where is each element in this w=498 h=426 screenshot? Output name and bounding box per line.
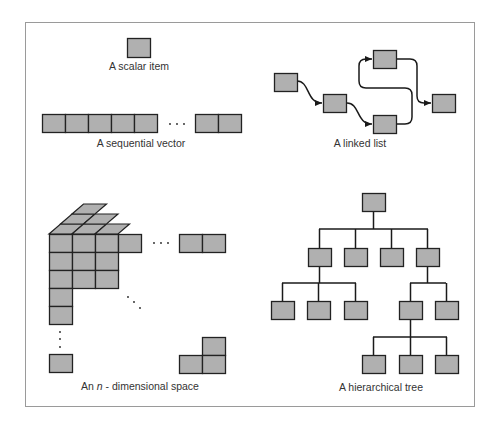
linked-list-node — [433, 95, 456, 113]
linked-list-node — [374, 116, 397, 134]
nspace-row-ellipsis-dot — [160, 242, 162, 244]
linked-list-label: A linked list — [334, 137, 387, 149]
nspace-cell — [50, 289, 73, 307]
linked-list-node — [275, 74, 298, 92]
scalar-cell — [128, 39, 151, 58]
nspace-cell — [96, 235, 119, 253]
tree-node — [381, 249, 404, 267]
tree-node — [345, 302, 368, 320]
nspace-cell — [73, 253, 96, 271]
link-arrow-2-3 — [347, 103, 372, 124]
nspace-cell — [50, 235, 73, 253]
vector-cell — [196, 115, 219, 133]
nspace-diagonal-ellipsis-dot — [127, 296, 129, 298]
nspace-cell — [203, 338, 226, 356]
nspace-diagonal-ellipsis-dot — [133, 301, 135, 303]
nspace-cell — [203, 356, 226, 374]
nspace-cell — [73, 271, 96, 289]
nspace-cell — [96, 253, 119, 271]
vector-cell — [89, 115, 112, 133]
nspace-row-ellipsis-dot — [167, 242, 169, 244]
link-arrow-4-5 — [397, 59, 431, 103]
linked-list-node — [374, 51, 397, 69]
vector-cell — [66, 115, 89, 133]
nspace-label-suffix: - dimensional space — [103, 380, 199, 392]
nspace-label-prefix: An — [81, 380, 97, 392]
vector-ellipsis-dot — [169, 123, 171, 125]
tree-label: A hierarchical tree — [339, 381, 423, 393]
tree-node — [272, 302, 295, 320]
link-arrow-1-2 — [297, 81, 322, 103]
nspace-cell — [50, 355, 73, 373]
nspace-cell — [180, 235, 203, 253]
nspace-cell — [119, 235, 142, 253]
tree-node — [436, 302, 459, 320]
nspace-column-ellipsis-dot — [59, 346, 61, 348]
tree-node — [417, 249, 440, 267]
vector-cell — [135, 115, 158, 133]
nspace-cell — [50, 307, 73, 325]
tree-node — [345, 249, 368, 267]
nspace-cell — [180, 356, 203, 374]
vector-cell — [112, 115, 135, 133]
tree-node — [400, 302, 423, 320]
linked-list-node — [324, 95, 347, 113]
nspace-column-ellipsis-dot — [59, 338, 61, 340]
nspace-top-face — [72, 204, 107, 214]
tree-leaf-node — [436, 356, 459, 374]
diagram-canvas — [0, 0, 498, 426]
nspace-cell — [96, 271, 119, 289]
nspace-column-ellipsis-dot — [59, 331, 61, 333]
tree-node — [308, 302, 331, 320]
nspace-cell — [73, 235, 96, 253]
tree-node — [309, 249, 332, 267]
vector-ellipsis-dot — [183, 123, 185, 125]
tree-leaf-node — [363, 356, 386, 374]
nspace-cell — [50, 253, 73, 271]
vector-cell — [43, 115, 66, 133]
nspace-cell — [50, 271, 73, 289]
vector-ellipsis-dot — [176, 123, 178, 125]
nspace-row-ellipsis-dot — [153, 242, 155, 244]
nspace-diagonal-ellipsis-dot — [139, 307, 141, 309]
nspace-label: An n - dimensional space — [81, 380, 199, 392]
scalar-label: A scalar item — [109, 60, 169, 72]
nspace-cell — [203, 235, 226, 253]
vector-label: A sequential vector — [97, 137, 186, 149]
vector-cell — [219, 115, 242, 133]
tree-root-node — [363, 194, 386, 212]
tree-leaf-node — [400, 356, 423, 374]
